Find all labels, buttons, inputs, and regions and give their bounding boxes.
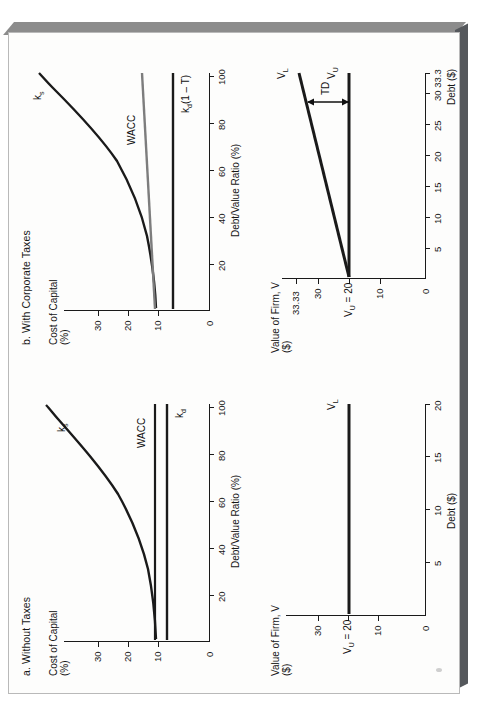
panel-b-vl-label: VL [276,68,289,79]
figure-page: a. Without Taxes Cost of Capital (%) 30 … [0,0,479,726]
panel-b-value-curves [8,32,460,363]
panel-without-taxes: a. Without Taxes Cost of Capital (%) 30 … [8,363,460,694]
figure-canvas: a. Without Taxes Cost of Capital (%) 30 … [8,32,460,694]
panel-b-vl-line [299,73,349,277]
panel-b-vu-label: VU [326,67,339,79]
panel-a-value-curves [8,363,460,694]
panel-with-corporate-taxes: b. With Corporate Taxes Cost of Capital … [8,32,460,363]
panel-b-td-label: TD [320,82,331,95]
panel-a-vl-label: VL [326,399,339,410]
panel-b-td-arrow [307,99,349,106]
